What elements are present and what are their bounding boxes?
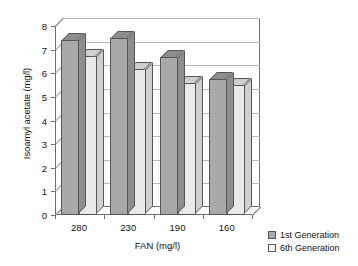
gridline xyxy=(63,42,260,43)
y-tick-label: 6 xyxy=(42,68,47,79)
y-tick-mark: 4 xyxy=(51,121,55,122)
y-tick-label: 5 xyxy=(42,91,47,102)
y-tick-label: 7 xyxy=(42,44,47,55)
bar-side-face xyxy=(226,72,234,214)
y-tick-label: 4 xyxy=(42,115,47,126)
x-tick-mark xyxy=(203,215,204,219)
bar-side-face xyxy=(177,50,185,214)
bar-side-face xyxy=(127,31,135,214)
plot-area: 012345678 280230190160 xyxy=(55,18,260,215)
y-tick-label: 3 xyxy=(42,139,47,150)
y-tick-label: 0 xyxy=(42,210,47,221)
y-tick-mark: 3 xyxy=(51,144,55,145)
x-tick-label-230: 230 xyxy=(120,222,136,233)
bar-side-face xyxy=(195,76,203,214)
legend-swatch-icon-series-1 xyxy=(268,231,276,239)
legend-label-series-2: 6th Generation xyxy=(280,243,340,253)
y-tick-label: 1 xyxy=(42,186,47,197)
bar-280-series-1 xyxy=(61,40,79,215)
x-tick-mark xyxy=(252,215,253,219)
x-tick-mark xyxy=(154,215,155,219)
y-axis-title: Isoamyl acetate (mg/l) xyxy=(21,19,32,209)
y-tick-mark: 7 xyxy=(51,50,55,51)
x-tick-mark xyxy=(104,215,105,219)
bar-160-series-1 xyxy=(209,79,227,215)
legend-label-series-1: 1st Generation xyxy=(280,230,339,240)
legend-swatch-icon-series-2 xyxy=(268,244,276,252)
y-tick-label: 2 xyxy=(42,162,47,173)
bar-side-face xyxy=(244,78,252,214)
x-tick-label-160: 160 xyxy=(219,222,235,233)
x-axis-title: FAN (mg/l) xyxy=(55,240,260,251)
x-tick-mark xyxy=(55,215,56,219)
gridline xyxy=(63,18,260,19)
x-tick-label-280: 280 xyxy=(71,222,87,233)
y-tick-mark: 8 xyxy=(51,26,55,27)
chart-legend: 1st Generation 6th Generation xyxy=(268,228,340,254)
legend-item-series-1: 1st Generation xyxy=(268,228,340,241)
y-tick-mark: 5 xyxy=(51,97,55,98)
y-tick-mark: 1 xyxy=(51,191,55,192)
bar-190-series-1 xyxy=(160,57,178,215)
y-tick-mark: 2 xyxy=(51,168,55,169)
y-tick-mark: 6 xyxy=(51,73,55,74)
bar-side-face xyxy=(78,33,86,214)
x-tick-label-190: 190 xyxy=(170,222,186,233)
bar-side-face xyxy=(145,62,153,214)
bar-side-face xyxy=(96,49,104,214)
legend-item-series-2: 6th Generation xyxy=(268,241,340,254)
y-tick-label: 8 xyxy=(42,21,47,32)
bar-230-series-1 xyxy=(110,38,128,215)
floor-depth-line-right xyxy=(252,207,261,216)
chart-figure: Isoamyl acetate (mg/l) 012345678 2802301… xyxy=(0,0,358,266)
